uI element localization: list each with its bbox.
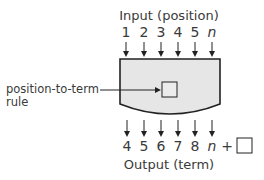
output-value: 7 [174, 138, 183, 154]
plus-sign: + [221, 138, 233, 154]
input-value: 3 [157, 24, 166, 40]
output-value: 5 [140, 138, 149, 154]
answer-box [237, 138, 252, 153]
input-arrows [126, 42, 212, 54]
output-value: 8 [191, 138, 200, 154]
output-arrows [127, 120, 212, 134]
rule-label-2: rule [6, 95, 28, 109]
input-title: Input (position) [119, 8, 218, 23]
input-value: n [208, 24, 217, 40]
function-machine-diagram: Input (position) 1 2 3 4 5 n position-to… [0, 0, 264, 180]
input-value: 2 [140, 24, 149, 40]
rule-box [162, 82, 177, 97]
output-value: 4 [123, 138, 132, 154]
input-value: 5 [191, 24, 200, 40]
output-value: n [208, 138, 217, 154]
output-title: Output (term) [124, 157, 214, 172]
rule-label: position-to-term [6, 82, 99, 96]
output-value: 6 [157, 138, 166, 154]
input-value: 1 [122, 24, 131, 40]
input-values: 1 2 3 4 5 n [122, 24, 217, 40]
input-value: 4 [174, 24, 183, 40]
output-values: 4 5 6 7 8 n + [123, 138, 233, 154]
